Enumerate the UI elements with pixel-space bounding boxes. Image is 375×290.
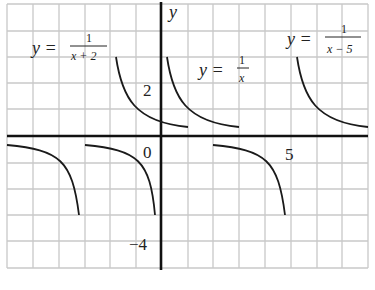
- svg-text:x − 5: x − 5: [326, 42, 352, 56]
- origin-label: 0: [143, 143, 152, 162]
- curve-1-over-x-plus-2-left: [7, 145, 79, 215]
- svg-text:1: 1: [341, 22, 347, 36]
- curve-1-over-x-minus-5-left: [213, 145, 285, 215]
- svg-text:1: 1: [239, 53, 245, 67]
- y-axis-label: y: [167, 2, 177, 22]
- equation-label-1: y = 1 x + 2: [30, 31, 107, 63]
- tick-label-5: 5: [285, 145, 294, 164]
- tick-label-2: 2: [143, 81, 152, 100]
- tick-label-neg4: −4: [129, 235, 148, 254]
- svg-text:y =: y =: [285, 29, 312, 49]
- svg-text:y =: y =: [197, 60, 224, 80]
- equation-label-2: y = 1 x: [197, 53, 249, 85]
- hyperbola-graph: y 0 2 5 −4 y = 1 x + 2 y = 1 x y = 1 x −…: [0, 0, 375, 290]
- equation-label-3: y = 1 x − 5: [285, 22, 361, 56]
- svg-text:x + 2: x + 2: [70, 49, 96, 63]
- curve-1-over-x-minus-5-right: [297, 57, 368, 127]
- svg-text:1: 1: [86, 31, 92, 45]
- svg-text:y =: y =: [30, 38, 57, 58]
- svg-text:x: x: [238, 71, 245, 85]
